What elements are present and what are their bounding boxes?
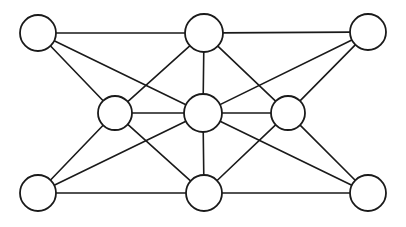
graph-edge <box>203 51 204 94</box>
graph-edge <box>127 45 190 102</box>
graph-edge <box>217 46 276 102</box>
graph-node-top-middle <box>185 14 223 52</box>
graph-edge <box>50 125 104 181</box>
graph-node-top-right <box>350 14 386 50</box>
graph-node-bottom-right <box>350 175 386 211</box>
graph-edge <box>222 32 350 33</box>
graph-node-mid-left <box>98 96 132 130</box>
node-layer <box>20 14 386 211</box>
graph-edge <box>50 46 104 102</box>
graph-edge <box>54 121 187 185</box>
graph-canvas <box>0 0 406 227</box>
graph-node-mid-right <box>271 96 305 130</box>
graph-edge <box>300 44 356 101</box>
network-graph-figure <box>0 0 406 227</box>
graph-node-center <box>184 94 222 132</box>
graph-edge <box>203 131 204 175</box>
graph-node-bottom-left <box>20 175 56 211</box>
graph-edge <box>217 124 277 181</box>
graph-edge <box>220 40 353 105</box>
graph-node-top-left <box>20 15 56 51</box>
graph-edge <box>54 41 187 105</box>
graph-edge <box>127 124 191 181</box>
graph-edge <box>300 125 356 181</box>
graph-node-bottom-middle <box>186 175 222 211</box>
